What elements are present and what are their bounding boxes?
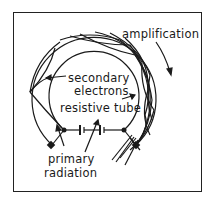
label-resistive-tube: resistive tube [60,102,141,114]
label-amplification: amplification [122,28,199,40]
label-secondary-2: electrons [74,85,129,97]
label-secondary-1: secondary [68,72,129,84]
label-primary-1: primary [48,153,94,165]
label-primary-2: radiation [44,167,97,179]
